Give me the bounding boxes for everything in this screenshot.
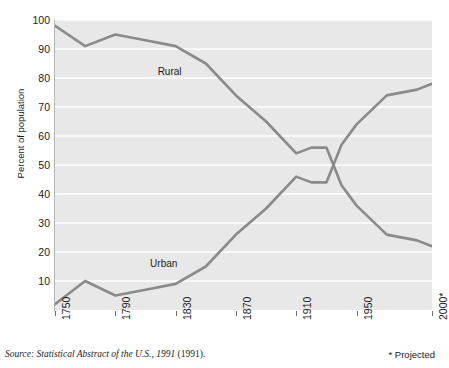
y-axis-tick-labels: 100908070605040302010: [8, 20, 50, 310]
y-tick-label: 40: [16, 189, 50, 200]
series-label-urban: Urban: [150, 258, 177, 269]
source-note-year: (1991).: [175, 349, 205, 359]
x-tick-label: 1790: [120, 297, 132, 320]
x-tick-label: 1750: [60, 297, 72, 320]
x-tick-mark: [296, 311, 297, 316]
x-tick-mark: [55, 311, 56, 316]
y-tick-label: 100: [16, 15, 50, 26]
y-tick-label: 60: [16, 131, 50, 142]
x-tick-label: 2000*: [437, 293, 449, 320]
plot-svg: [55, 20, 432, 310]
x-tick-mark: [115, 311, 116, 316]
x-tick-label: 1830: [181, 297, 193, 320]
projected-note: * Projected: [389, 349, 435, 360]
y-tick-label: 80: [16, 73, 50, 84]
chart-title: [0, 0, 449, 2]
source-note: Source: Statistical Abstract of the U.S.…: [5, 349, 205, 359]
y-tick-label: 50: [16, 160, 50, 171]
source-note-italic: Source: Statistical Abstract of the U.S.…: [5, 349, 175, 359]
y-tick-label: 90: [16, 44, 50, 55]
y-tick-label: 10: [16, 276, 50, 287]
y-tick-label: 20: [16, 247, 50, 258]
y-tick-label: 70: [16, 102, 50, 113]
plot-area: Rural Urban: [55, 20, 432, 310]
x-tick-mark: [236, 311, 237, 316]
x-tick-label: 1910: [301, 297, 313, 320]
y-tick-label: 30: [16, 218, 50, 229]
x-tick-mark: [432, 311, 433, 316]
x-tick-mark: [357, 311, 358, 316]
x-tick-label: 1950: [362, 297, 374, 320]
x-tick-mark: [176, 311, 177, 316]
x-tick-label: 1870: [241, 297, 253, 320]
series-label-rural: Rural: [158, 66, 182, 77]
gridlines: [55, 20, 432, 281]
chart-figure: Percent of population 100908070605040302…: [0, 0, 449, 368]
